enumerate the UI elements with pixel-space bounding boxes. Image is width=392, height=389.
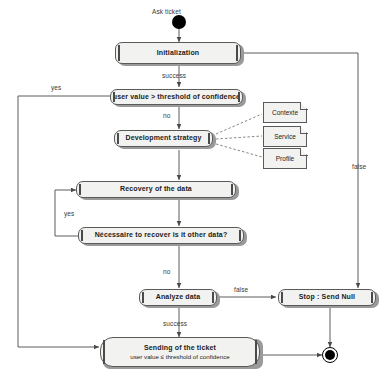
node-initialization[interactable]: Initialization bbox=[115, 42, 241, 64]
edge-label-success-analyze: success bbox=[163, 320, 187, 327]
node-user-value-threshold-label: user value > threshold of confidence bbox=[113, 93, 240, 101]
edge-label-yes-threshold: yes bbox=[51, 84, 61, 91]
edge-label-no-recover: no bbox=[163, 268, 170, 275]
note-contexte-fold-icon bbox=[300, 102, 308, 110]
node-analyze-data[interactable]: Analyze data bbox=[139, 289, 217, 306]
node-recovery-of-the-data-label: Recovery of the data bbox=[120, 185, 192, 193]
edge-development-to-contexte bbox=[216, 114, 262, 134]
edge-initialization-false-to-stop bbox=[243, 53, 358, 288]
note-contexte-label: Contexte bbox=[272, 109, 298, 116]
note-service-fold-icon bbox=[300, 126, 308, 134]
node-necessaire-recover[interactable]: Nécessaire to recover is it other data? bbox=[78, 227, 244, 244]
node-sending-of-the-ticket[interactable]: Sending of the ticket user value ≤ thres… bbox=[100, 337, 260, 367]
node-development-strategy-label: Development strategy bbox=[125, 134, 201, 142]
node-sending-of-the-ticket-label: Sending of the ticket bbox=[144, 344, 216, 352]
edge-development-to-service bbox=[216, 136, 262, 139]
node-user-value-threshold[interactable]: user value > threshold of confidence bbox=[110, 89, 243, 105]
node-recovery-of-the-data[interactable]: Recovery of the data bbox=[76, 181, 236, 198]
edge-label-false-stop-return: false bbox=[352, 163, 366, 170]
node-sending-of-the-ticket-sublabel: user value ≤ threshold of confidence bbox=[130, 353, 229, 360]
node-necessaire-recover-label: Nécessaire to recover is it other data? bbox=[95, 231, 228, 239]
edge-label-no-threshold: no bbox=[163, 112, 170, 119]
edge-label-success-after-init: success bbox=[162, 72, 186, 79]
edge-threshold-yes-to-sending bbox=[18, 96, 110, 347]
edge-label-false-analyze: false bbox=[234, 286, 248, 293]
node-stop-send-null[interactable]: Stop : Send Null bbox=[278, 289, 376, 306]
activity-diagram-canvas: Ask ticket Initialization success user v… bbox=[0, 0, 392, 389]
node-analyze-data-label: Analyze data bbox=[156, 293, 201, 301]
node-development-strategy[interactable]: Development strategy bbox=[114, 130, 213, 147]
edge-label-yes-recover: yes bbox=[64, 210, 74, 217]
start-node-label: Ask ticket bbox=[152, 8, 181, 15]
node-stop-send-null-label: Stop : Send Null bbox=[299, 293, 355, 301]
note-profile-label: Profile bbox=[276, 155, 294, 162]
note-profile-fold-icon bbox=[300, 148, 308, 156]
note-service-label: Service bbox=[274, 133, 296, 140]
start-node-icon bbox=[172, 15, 186, 29]
edge-development-to-profile bbox=[216, 144, 262, 157]
end-node-icon bbox=[325, 350, 335, 360]
node-initialization-label: Initialization bbox=[157, 49, 200, 57]
